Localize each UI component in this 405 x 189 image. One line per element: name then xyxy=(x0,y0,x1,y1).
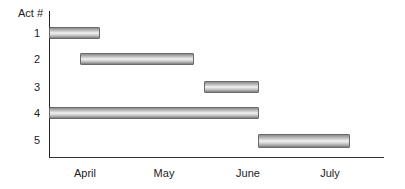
x-tick-label-june: June xyxy=(236,167,260,179)
activity-bar-5 xyxy=(258,134,350,148)
activity-bar-4 xyxy=(49,107,259,119)
gantt-chart: Act # 1 2 3 4 5 April May June July xyxy=(0,0,405,189)
y-tick-label-4: 4 xyxy=(27,107,47,119)
x-tick-label-july: July xyxy=(320,167,340,179)
y-tick-label-1: 1 xyxy=(27,27,47,39)
x-axis-line xyxy=(49,157,384,158)
activity-bar-2 xyxy=(80,53,194,65)
x-tick-label-may: May xyxy=(154,167,175,179)
y-tick-label-5: 5 xyxy=(27,134,47,146)
y-axis-title: Act # xyxy=(18,7,43,19)
activity-bar-1 xyxy=(49,27,100,39)
y-tick-label-3: 3 xyxy=(27,81,47,93)
y-tick-label-2: 2 xyxy=(27,53,47,65)
x-tick-label-april: April xyxy=(74,167,96,179)
activity-bar-3 xyxy=(204,81,259,93)
